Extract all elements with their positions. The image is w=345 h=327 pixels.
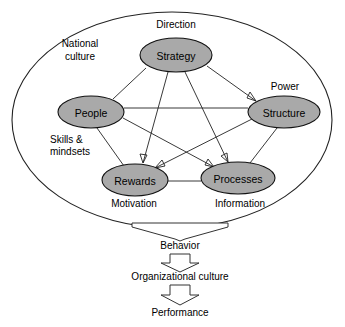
link-strategy-processes: [185, 72, 228, 162]
flow-step-performance-label: Performance: [151, 307, 209, 318]
node-strategy[interactable]: Strategy: [140, 38, 212, 72]
arrow-to-performance-icon: [161, 285, 199, 305]
national-culture-label: National culture: [62, 38, 99, 62]
node-rewards-label: Rewards: [114, 175, 155, 187]
node-structure[interactable]: Structure: [248, 96, 320, 128]
organizational-culture-diagram: Strategy People Structure Rewards Proces…: [0, 0, 345, 327]
link-strategy-structure: [207, 66, 256, 101]
link-structure-processes: [250, 128, 277, 163]
node-rewards[interactable]: Rewards: [102, 164, 168, 196]
diagram-canvas: Strategy People Structure Rewards Proces…: [0, 0, 345, 327]
node-processes-label: Processes: [213, 173, 262, 185]
node-structure-label: Structure: [263, 107, 306, 119]
annotation-skills: Skills &: [50, 134, 83, 145]
link-people-processes: [123, 118, 214, 167]
arrowhead-strategy-structure: [247, 92, 256, 101]
annotation-power: Power: [271, 81, 300, 92]
national-culture-label-line1: National: [62, 38, 99, 49]
annotation-information: Information: [215, 198, 265, 209]
node-strategy-label: Strategy: [156, 50, 196, 62]
flow-step-org-culture-label: Organizational culture: [131, 271, 229, 282]
arrowhead-strategy-processes: [221, 153, 228, 162]
node-processes[interactable]: Processes: [201, 162, 275, 194]
node-people[interactable]: People: [58, 96, 124, 128]
annotation-mindsets: mindsets: [50, 146, 90, 157]
annotation-motivation: Motivation: [111, 198, 157, 209]
link-people-rewards: [97, 128, 124, 166]
national-culture-label-line2: culture: [65, 51, 95, 62]
link-strategy-people: [113, 68, 146, 99]
annotation-direction: Direction: [156, 19, 195, 30]
arrow-to-behavior-icon: [132, 223, 228, 241]
arrowhead-structure-rewards: [155, 160, 165, 168]
flow-step-behavior-label: Behavior: [160, 240, 200, 251]
link-strategy-rewards: [143, 72, 168, 163]
arrowhead-strategy-rewards: [140, 154, 147, 163]
arrow-to-org-culture-icon: [161, 254, 199, 272]
node-people-label: People: [75, 107, 108, 119]
